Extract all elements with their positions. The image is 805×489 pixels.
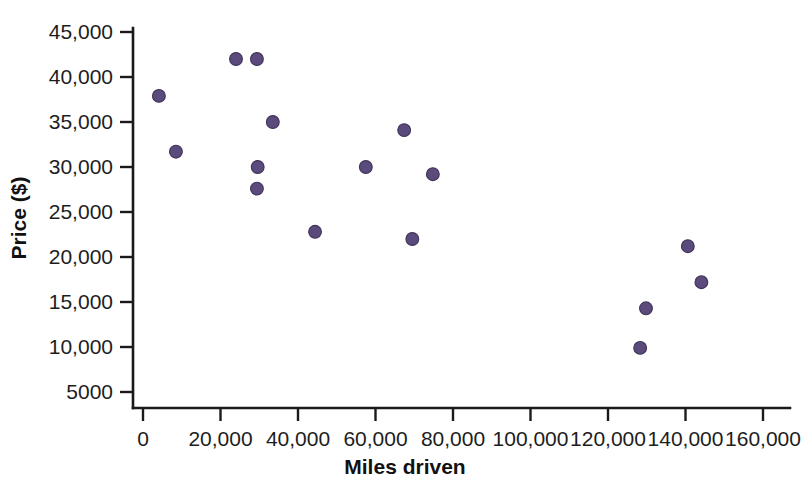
y-axis-tick-labels: 500010,00015,00020,00025,00030,00035,000… — [49, 20, 113, 403]
data-point — [309, 225, 322, 238]
y-tick-label: 20,000 — [49, 245, 113, 268]
chart-canvas: 500010,00015,00020,00025,00030,00035,000… — [0, 0, 805, 489]
data-point — [251, 53, 264, 66]
data-point — [695, 276, 708, 289]
x-axis-ticks — [143, 408, 763, 421]
x-tick-label: 60,000 — [343, 427, 407, 450]
y-tick-label: 45,000 — [49, 20, 113, 43]
y-tick-label: 30,000 — [49, 155, 113, 178]
x-tick-label: 160,000 — [725, 427, 801, 450]
x-axis-group: 020,00040,00060,00080,000100,000120,0001… — [133, 408, 801, 450]
data-point — [634, 342, 647, 355]
data-point — [426, 168, 439, 181]
y-axis-group: 500010,00015,00020,00025,00030,00035,000… — [49, 20, 133, 408]
data-point — [359, 161, 372, 174]
data-points-group — [152, 53, 707, 355]
x-axis-title: Miles driven — [344, 455, 465, 478]
y-tick-label: 15,000 — [49, 290, 113, 313]
x-tick-label: 100,000 — [493, 427, 569, 450]
y-tick-label: 35,000 — [49, 110, 113, 133]
data-point — [251, 182, 264, 195]
data-point — [152, 90, 165, 103]
data-point — [681, 240, 694, 253]
data-point — [406, 233, 419, 246]
y-axis-ticks — [120, 32, 133, 392]
x-axis-tick-labels: 020,00040,00060,00080,000100,000120,0001… — [137, 427, 801, 450]
data-point — [266, 116, 279, 129]
y-tick-label: 5000 — [66, 380, 113, 403]
data-point — [170, 145, 183, 158]
data-point — [230, 53, 243, 66]
data-point — [640, 302, 653, 315]
x-tick-label: 0 — [137, 427, 149, 450]
x-tick-label: 40,000 — [266, 427, 330, 450]
x-tick-label: 120,000 — [570, 427, 646, 450]
scatter-chart: 500010,00015,00020,00025,00030,00035,000… — [0, 0, 805, 489]
y-tick-label: 10,000 — [49, 335, 113, 358]
x-tick-label: 80,000 — [421, 427, 485, 450]
x-tick-label: 20,000 — [188, 427, 252, 450]
data-point — [398, 124, 411, 137]
y-tick-label: 25,000 — [49, 200, 113, 223]
x-tick-label: 140,000 — [648, 427, 724, 450]
y-axis-title: Price ($) — [7, 177, 30, 260]
data-point — [251, 161, 264, 174]
y-tick-label: 40,000 — [49, 65, 113, 88]
